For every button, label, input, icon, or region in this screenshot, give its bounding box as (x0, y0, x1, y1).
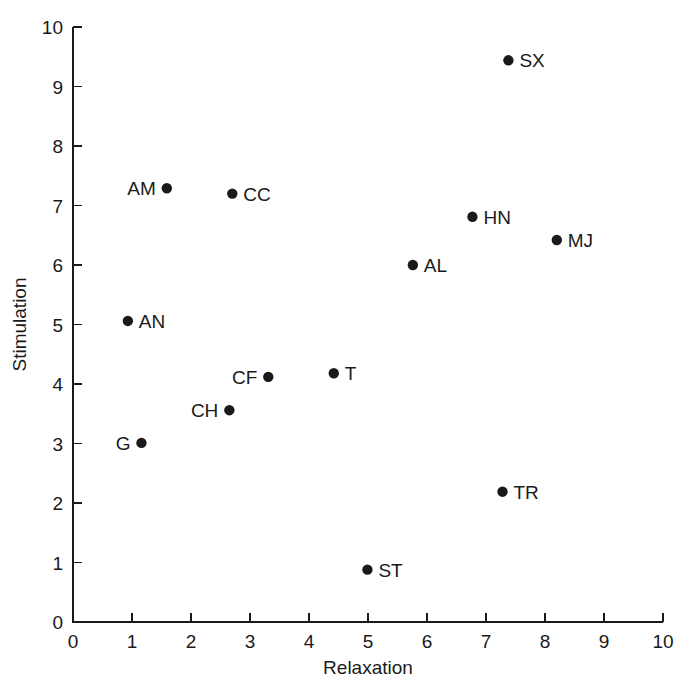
data-point-label: CH (191, 400, 218, 421)
data-point[interactable]: SX (503, 50, 545, 71)
y-tick-label-0: 0 (52, 612, 63, 633)
x-tick-label-9: 9 (599, 631, 610, 652)
data-point-marker[interactable] (497, 486, 507, 496)
x-tick-label-7: 7 (481, 631, 492, 652)
data-point-label: CF (232, 367, 257, 388)
data-point-marker[interactable] (224, 405, 234, 415)
data-point-label: AL (424, 255, 447, 276)
data-point-label: MJ (568, 230, 593, 251)
x-tick-label-6: 6 (422, 631, 433, 652)
data-point-label: SX (519, 50, 545, 71)
x-tick-label-5: 5 (363, 631, 374, 652)
data-point-marker[interactable] (263, 372, 273, 382)
data-point-marker[interactable] (362, 564, 372, 574)
data-point-label: HN (483, 207, 510, 228)
data-point[interactable]: AM (127, 178, 172, 199)
data-point[interactable]: CF (232, 367, 274, 388)
data-point[interactable]: MJ (552, 230, 594, 251)
x-tick-label-4: 4 (304, 631, 315, 652)
data-point-marker[interactable] (552, 235, 562, 245)
data-point-label: TR (514, 482, 539, 503)
x-tick-label-3: 3 (245, 631, 256, 652)
x-tick-label-2: 2 (186, 631, 197, 652)
y-tick-label-8: 8 (52, 136, 63, 157)
data-point-label: AN (139, 311, 165, 332)
scatter-plot-figure: 012345678910012345678910RelaxationStimul… (0, 0, 685, 689)
data-point[interactable]: ST (362, 560, 403, 581)
y-axis-title: Stimulation (9, 278, 30, 372)
data-point-label: T (345, 363, 357, 384)
data-point-marker[interactable] (503, 55, 513, 65)
y-tick-label-6: 6 (52, 255, 63, 276)
data-point[interactable]: T (329, 363, 357, 384)
y-tick-label-3: 3 (52, 434, 63, 455)
data-point[interactable]: CH (191, 400, 235, 421)
data-point[interactable]: G (116, 433, 147, 454)
data-point[interactable]: AL (408, 255, 447, 276)
data-point-marker[interactable] (408, 260, 418, 270)
y-tick-label-1: 1 (52, 553, 63, 574)
y-tick-label-4: 4 (52, 374, 63, 395)
data-point[interactable]: HN (467, 207, 511, 228)
y-tick-label-10: 10 (42, 17, 63, 38)
data-point-marker[interactable] (136, 438, 146, 448)
x-tick-label-10: 10 (652, 631, 673, 652)
data-point-marker[interactable] (329, 368, 339, 378)
data-point-label: CC (243, 184, 270, 205)
x-axis-title: Relaxation (323, 657, 413, 678)
data-point[interactable]: CC (227, 184, 271, 205)
y-tick-label-2: 2 (52, 493, 63, 514)
y-tick-label-7: 7 (52, 196, 63, 217)
y-tick-label-5: 5 (52, 315, 63, 336)
x-tick-label-8: 8 (540, 631, 551, 652)
data-point-marker[interactable] (123, 316, 133, 326)
data-point[interactable]: TR (497, 482, 539, 503)
plot-canvas: 012345678910012345678910RelaxationStimul… (0, 0, 685, 689)
data-point[interactable]: AN (123, 311, 166, 332)
data-point-marker[interactable] (467, 212, 477, 222)
data-point-label: G (116, 433, 131, 454)
data-point-label: ST (378, 560, 403, 581)
data-point-label: AM (127, 178, 156, 199)
y-tick-label-9: 9 (52, 77, 63, 98)
data-point-marker[interactable] (162, 183, 172, 193)
data-point-marker[interactable] (227, 188, 237, 198)
x-tick-label-1: 1 (127, 631, 138, 652)
x-tick-label-0: 0 (68, 631, 79, 652)
